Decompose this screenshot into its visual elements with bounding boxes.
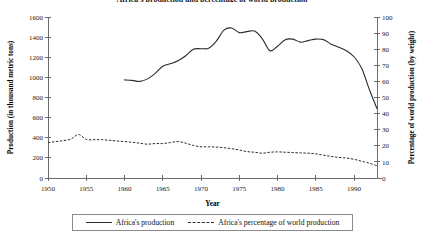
x-axis-tick-label: 1985 <box>309 185 324 193</box>
legend-swatch-solid-line-icon <box>86 220 112 226</box>
x-axis-tick-label: 1980 <box>271 185 286 193</box>
y-axis-left-tick-label: 400 <box>33 134 44 142</box>
y-axis-left-tick-label: 1600 <box>29 14 44 22</box>
chart-plot-area: 0200400600800100012001400160001020304050… <box>0 0 424 238</box>
chart-container: Africa's production and percentage of wo… <box>0 0 424 238</box>
chart-legend: Africa's production Africa's percentage … <box>72 214 353 231</box>
y-axis-left-tick-label: 1200 <box>29 54 44 62</box>
y-axis-right-tick-label: 20 <box>382 142 390 150</box>
y-axis-left-tick-label: 0 <box>40 175 44 183</box>
series-group <box>48 28 377 166</box>
y-axis-right-title: Percentage of world production (by weigh… <box>408 30 416 164</box>
y-axis-right-tick-label: 40 <box>382 110 390 118</box>
legend-item-production[interactable]: Africa's production <box>86 218 175 227</box>
x-axis-tick-label: 1950 <box>41 185 56 193</box>
y-axis-left-tick-label: 800 <box>33 94 44 102</box>
x-axis-tick-label: 1990 <box>347 185 362 193</box>
y-axis-right-tick-label: 90 <box>382 30 390 38</box>
x-axis-tick-label: 1965 <box>156 185 171 193</box>
y-axis-right-tick-label: 50 <box>382 94 390 102</box>
legend-swatch-dashed-line-icon <box>188 220 214 226</box>
series-line-percentage <box>48 135 377 166</box>
x-axis-tick-label: 1955 <box>79 185 94 193</box>
x-axis-tick-label: 1975 <box>232 185 247 193</box>
y-axis-left-tick-label: 200 <box>33 154 44 162</box>
legend-item-percentage[interactable]: Africa's percentage of world production <box>188 218 339 227</box>
y-axis-right-tick-label: 60 <box>382 78 390 86</box>
y-axis-right-tick-label: 0 <box>382 175 386 183</box>
y-axis-right-tick-label: 100 <box>382 14 393 22</box>
y-axis-left-title: Production (in thousand metric tons) <box>7 40 15 154</box>
y-axis-right-tick-label: 80 <box>382 46 390 54</box>
axes-group: 0200400600800100012001400160001020304050… <box>29 14 393 193</box>
y-axis-right-tick-label: 70 <box>382 62 390 70</box>
y-axis-left-tick-label: 1000 <box>29 74 44 82</box>
legend-label-percentage: Africa's percentage of world production <box>218 218 339 227</box>
legend-label-production: Africa's production <box>116 218 175 227</box>
y-axis-right-tick-label: 10 <box>382 159 390 167</box>
y-axis-left-tick-label: 1400 <box>29 34 44 42</box>
y-axis-right-tick-label: 30 <box>382 126 390 134</box>
series-line-production <box>125 28 377 109</box>
x-axis-tick-label: 1970 <box>194 185 209 193</box>
y-axis-left-tick-label: 600 <box>33 114 44 122</box>
x-axis-tick-label: 1960 <box>118 185 133 193</box>
x-axis-title: Year <box>205 200 220 208</box>
